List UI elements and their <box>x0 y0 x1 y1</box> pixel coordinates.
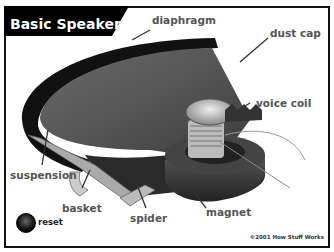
reset-label[interactable]: reset <box>38 217 63 227</box>
label-magnet: magnet <box>206 206 251 218</box>
diagram-title: Basic Speaker <box>10 16 121 32</box>
copyright-notice: ©2001 How Stuff Works <box>250 234 324 240</box>
reset-button[interactable] <box>16 213 36 233</box>
label-basket: basket <box>62 202 102 214</box>
label-dust-cap: dust cap <box>270 27 321 39</box>
label-voice-coil: voice coil <box>256 97 311 109</box>
label-diaphragm: diaphragm <box>152 14 216 26</box>
title-banner: Basic Speaker <box>4 6 129 36</box>
label-suspension: suspension <box>10 169 77 181</box>
label-spider: spider <box>130 212 167 224</box>
